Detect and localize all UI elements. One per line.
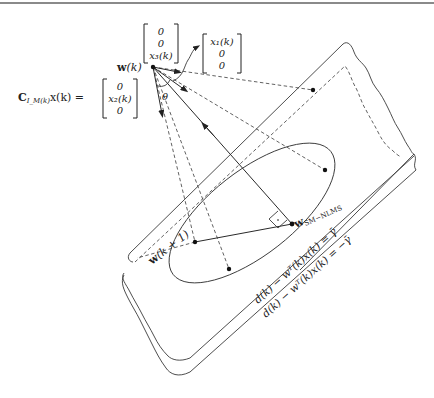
curly-arrow — [173, 47, 197, 81]
constraint-lines — [122, 154, 416, 375]
svg-text:x₁(k): x₁(k) — [210, 36, 234, 47]
svg-text:0: 0 — [219, 60, 226, 71]
point-right-upper — [311, 88, 315, 92]
label-c-lhs: CI_M(k)x(k) = — [18, 91, 84, 105]
svg-text:x₂(k): x₂(k) — [108, 93, 132, 104]
diagram-canvas: w(k) wSM−NLMS w(k + 1) θ CI_M(k)x(k) = d… — [0, 0, 434, 398]
point-w-k — [151, 65, 155, 69]
vector-right: x₁(k) 0 0 — [203, 34, 241, 73]
point-w-k1 — [193, 240, 197, 244]
dashed-hyperplane — [135, 66, 401, 262]
svg-text:0: 0 — [219, 48, 226, 59]
svg-text:0: 0 — [158, 26, 165, 37]
upper-hyperplane — [128, 43, 414, 270]
direction-arrows — [153, 67, 292, 242]
svg-text:0: 0 — [117, 105, 124, 116]
vector-top: 0 0 x₃(k) — [144, 24, 178, 63]
label-theta: θ — [162, 91, 168, 102]
svg-text:0: 0 — [158, 38, 165, 49]
point-ellipse-low — [227, 267, 231, 271]
label-w-k1: w(k + 1) — [145, 228, 192, 268]
label-w-k: w(k) — [116, 61, 142, 74]
sm-nlms-diagram: w(k) wSM−NLMS w(k + 1) θ CI_M(k)x(k) = d… — [0, 0, 434, 398]
svg-text:x₃(k): x₃(k) — [149, 50, 173, 61]
vector-left: 0 x₂(k) 0 — [103, 79, 137, 118]
svg-text:0: 0 — [117, 81, 124, 92]
point-right-lower — [323, 168, 327, 172]
